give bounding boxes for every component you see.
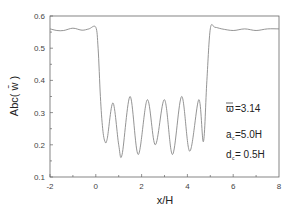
- x-tick-label: 8: [277, 182, 282, 191]
- x-tick-label: 6: [231, 182, 236, 191]
- y-axis-label: Abc( w̄ ): [8, 76, 20, 116]
- annotation-ac: a c =5.0H: [226, 129, 262, 141]
- x-tick-label: 4: [185, 182, 190, 191]
- dc-value: = 0.5H: [235, 149, 265, 160]
- svg-text:d: d: [226, 149, 232, 160]
- x-tick-label: 0: [94, 182, 99, 191]
- omega-value: =3.14: [235, 103, 261, 114]
- x-axis-ticks: -202468: [46, 174, 281, 191]
- y-tick-label: 0.6: [34, 12, 46, 21]
- ac-value: =5.0H: [235, 129, 262, 140]
- y-tick-label: 0.3: [34, 109, 46, 118]
- x-tick-label: 2: [139, 182, 144, 191]
- omega-symbol: ϖ: [226, 103, 234, 114]
- y-tick-label: 0.2: [34, 141, 46, 150]
- chart: -202468 0.10.20.30.40.50.6 x/H Abc( w̄ )…: [0, 0, 293, 217]
- x-axis-label: x/H: [157, 194, 174, 206]
- annotation-omega: ϖ =3.14: [226, 103, 261, 114]
- x-tick-label: -2: [46, 182, 54, 191]
- y-tick-label: 0.1: [34, 173, 46, 182]
- y-tick-label: 0.5: [34, 44, 46, 53]
- y-tick-label: 0.4: [34, 76, 46, 85]
- annotation-dc: d c = 0.5H: [226, 149, 265, 161]
